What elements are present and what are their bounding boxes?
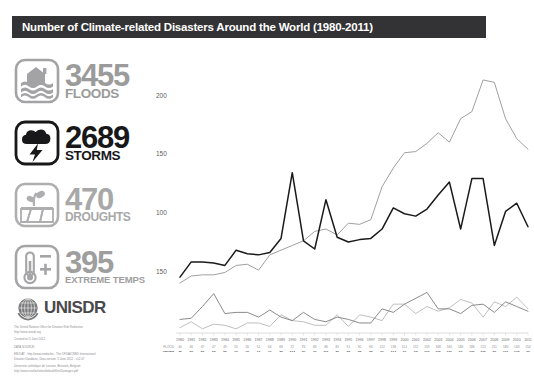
table-cell: 84 xyxy=(313,345,317,349)
table-cell: 72 xyxy=(493,351,497,352)
table-cell: 86 xyxy=(380,351,384,352)
y-axis-tick-label: 150 xyxy=(156,268,167,275)
table-cell: 56 xyxy=(246,345,250,349)
x-axis-year-label: 1984 xyxy=(221,338,229,342)
x-axis-year-label: 1990 xyxy=(288,338,296,342)
table-cell: 103 xyxy=(424,351,430,352)
table-cell: 213 xyxy=(480,345,486,349)
table-cell: 46 xyxy=(189,345,193,349)
stat-storms-number: 2689 xyxy=(65,125,129,150)
x-axis-year-label: 1989 xyxy=(277,338,285,342)
x-axis-year-label: 2001 xyxy=(412,338,420,342)
stat-floods-text: 3455 FLOODS xyxy=(65,63,129,99)
page-title: Number of Climate-related Disasters Arou… xyxy=(12,21,373,33)
table-cell: 90 xyxy=(358,345,362,349)
x-axis-year-label: 2008 xyxy=(490,338,498,342)
table-cell: 168 xyxy=(436,345,442,349)
x-axis-year-label: 2003 xyxy=(434,338,442,342)
stat-extreme-temps-number: 395 xyxy=(65,250,145,275)
thermometer-plus-minus-icon xyxy=(14,244,60,290)
table-cell: 51 xyxy=(257,345,261,349)
x-axis-year-label: 2000 xyxy=(401,338,409,342)
x-axis-year-label: 1981 xyxy=(187,338,195,342)
x-axis-year-label: 2006 xyxy=(468,338,476,342)
x-axis-year-label: 1999 xyxy=(389,338,397,342)
stat-floods-number: 3455 xyxy=(65,63,129,88)
table-cell: 40 xyxy=(178,345,182,349)
table-cell: 47 xyxy=(201,345,205,349)
organization-fine-print: The United Nations Office for Disaster R… xyxy=(14,325,154,373)
table-cell: 134 xyxy=(290,351,296,352)
table-cell: 55 xyxy=(223,351,227,352)
table-cell: 78 xyxy=(279,351,283,352)
table-cell: 115 xyxy=(436,351,441,352)
table-cell: 68 xyxy=(234,351,238,352)
table-row-label: STORM xyxy=(163,351,175,352)
table-cell: 211 xyxy=(492,345,497,349)
y-axis-tick-label: 200 xyxy=(156,92,167,99)
table-cell: 101 xyxy=(503,351,509,352)
x-axis-year-label: 1993 xyxy=(322,338,330,342)
table-cell: 86 xyxy=(324,345,328,349)
stat-droughts-text: 470 DROUGHTS xyxy=(65,187,130,222)
stat-droughts-label: DROUGHTS xyxy=(65,213,130,223)
page-title-bar: Number of Climate-related Disasters Arou… xyxy=(12,16,486,38)
table-cell: 129 xyxy=(469,351,475,352)
table-cell: 65 xyxy=(246,351,250,352)
table-cell: 186 xyxy=(469,345,475,349)
table-cell: 76 xyxy=(302,351,306,352)
table-cell: 126 xyxy=(447,351,453,352)
table-cell: 76 xyxy=(302,345,306,349)
table-cell: 86 xyxy=(459,351,463,352)
table-cell: 49 xyxy=(223,345,227,349)
organization-identity: UNISDR xyxy=(14,294,154,322)
infographic-root: Number of Climate-related Disasters Arou… xyxy=(0,0,534,392)
table-cell: 97 xyxy=(414,351,418,352)
table-cell: 47 xyxy=(212,345,216,349)
table-cell: 108 xyxy=(514,351,520,352)
un-globe-laurel-icon xyxy=(14,294,42,322)
table-cell: 72 xyxy=(290,345,294,349)
chart-canvas: 150100150200 198019811982198319841985198… xyxy=(152,52,534,352)
x-axis-year-label: 2005 xyxy=(457,338,465,342)
x-axis-year-label: 1995 xyxy=(344,338,352,342)
x-axis-year-label: 1994 xyxy=(333,338,341,342)
chart-series-lines xyxy=(180,80,528,329)
table-cell: 91 xyxy=(347,345,351,349)
stat-storms-label: STORMS xyxy=(65,150,129,161)
table-cell: 58 xyxy=(189,351,193,352)
drought-cracked-earth-plant-icon xyxy=(14,182,60,228)
table-cell: 180 xyxy=(458,345,464,349)
table-cell: 151 xyxy=(402,345,408,349)
table-cell: 122 xyxy=(379,345,385,349)
stat-extreme-temps-label: EXTREME TEMPS xyxy=(65,276,145,284)
x-axis-year-label: 1998 xyxy=(378,338,386,342)
table-cell: 104 xyxy=(391,351,397,352)
x-axis-year-label: 1983 xyxy=(210,338,218,342)
table-cell: 79 xyxy=(335,351,339,352)
stat-droughts: 470 DROUGHTS xyxy=(0,174,152,236)
table-cell: 75 xyxy=(347,351,351,352)
table-cell: 180 xyxy=(503,345,509,349)
table-cell: 88 xyxy=(526,351,530,352)
y-axis-labels: 150100150200 xyxy=(156,92,167,275)
x-axis-year-label: 1986 xyxy=(243,338,251,342)
x-axis-year-label: 2011 xyxy=(524,338,532,342)
summary-stats-panel: 3455 FLOODS 2689 STORMS xyxy=(0,50,152,298)
table-cell: 99 xyxy=(403,351,407,352)
fine-print-line: http://www.cred.be/sites/default/files/D… xyxy=(14,369,154,374)
x-axis-year-label: 1991 xyxy=(299,338,307,342)
stat-floods: 3455 FLOODS xyxy=(0,50,152,112)
table-cell: 69 xyxy=(313,351,317,352)
table-cell: 55 xyxy=(234,345,238,349)
x-axis-year-label: 2007 xyxy=(479,338,487,342)
x-axis-year-label: 2010 xyxy=(513,338,521,342)
table-cell: 57 xyxy=(212,351,216,352)
table-cell: 66 xyxy=(268,351,272,352)
table-cell: 68 xyxy=(279,345,283,349)
y-axis-tick-label: 150 xyxy=(156,150,167,157)
x-axis-year-label: 1992 xyxy=(311,338,319,342)
x-axis-year-label: 1982 xyxy=(198,338,206,342)
table-cell: 45 xyxy=(178,351,182,352)
organization-block: UNISDR The United Nations Office for Dis… xyxy=(14,294,154,373)
